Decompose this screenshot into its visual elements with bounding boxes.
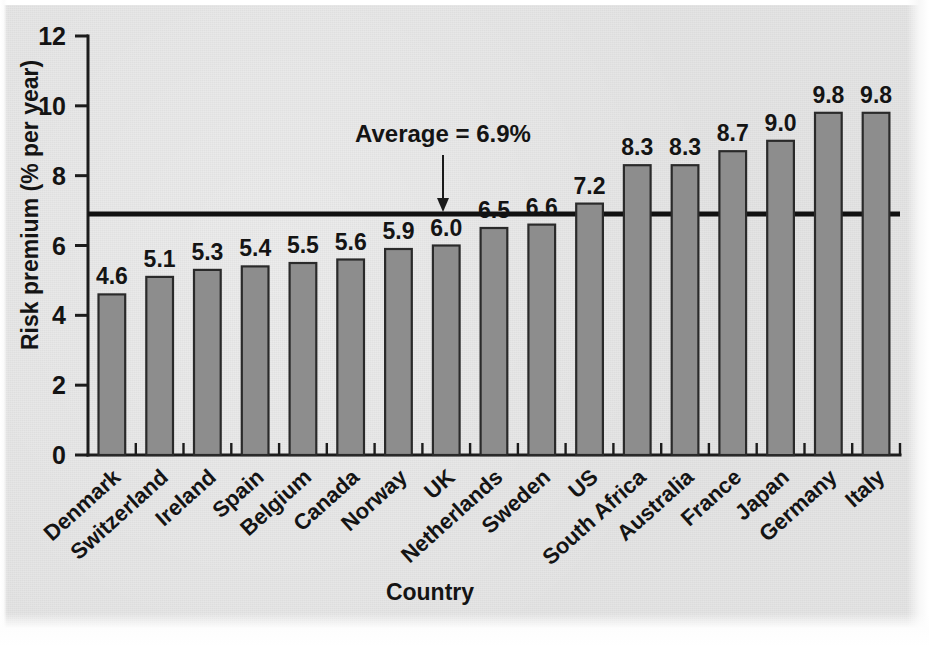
chart-svg: 024681012 4.65.15.35.45.55.65.96.06.56.6…: [0, 0, 929, 647]
y-axis-title: Risk premium (% per year): [17, 60, 43, 350]
x-axis-title: Country: [386, 579, 474, 605]
bar-value-label: 8.3: [669, 134, 701, 160]
bar-value-label: 5.9: [383, 218, 415, 244]
scanned-page: 024681012 4.65.15.35.45.55.65.96.06.56.6…: [0, 0, 929, 647]
bar-series: [99, 113, 890, 455]
bar-value-label: 8.7: [717, 120, 749, 146]
y-axis-tick-label: 0: [52, 441, 66, 469]
bar: [624, 165, 651, 455]
y-axis-tick-label: 12: [38, 22, 66, 50]
y-axis-tick-label: 2: [52, 371, 66, 399]
bar: [767, 141, 794, 455]
bar: [146, 277, 173, 455]
bar: [719, 151, 746, 455]
bar: [99, 294, 126, 455]
bar: [385, 249, 412, 455]
bar-chart: 024681012 4.65.15.35.45.55.65.96.06.56.6…: [0, 0, 929, 647]
bar-value-label: 9.0: [765, 110, 797, 136]
bar: [481, 228, 508, 455]
y-axis: 024681012: [38, 22, 88, 469]
bar-value-label: 8.3: [621, 134, 653, 160]
bar-value-label: 6.5: [478, 197, 510, 223]
bar-value-label: 5.4: [239, 235, 271, 261]
y-axis-tick-label: 6: [52, 232, 66, 260]
bar: [576, 204, 603, 455]
bar-value-label: 4.6: [96, 263, 128, 289]
bar: [337, 260, 364, 456]
bar: [242, 266, 269, 455]
bar: [433, 246, 460, 456]
bar-value-label: 5.1: [144, 246, 176, 272]
y-axis-tick-label: 4: [52, 301, 66, 329]
x-axis-category-label: Italy: [840, 464, 890, 513]
bar: [290, 263, 317, 455]
bar-value-label: 9.8: [812, 82, 844, 108]
average-annotation-label: Average = 6.9%: [355, 120, 531, 147]
bar: [528, 225, 555, 455]
bar-value-label: 9.8: [860, 82, 892, 108]
y-axis-tick-label: 8: [52, 162, 66, 190]
bar-value-label: 7.2: [574, 173, 606, 199]
bar-value-label: 5.6: [335, 229, 367, 255]
x-axis-category-labels: DenmarkSwitzerlandIrelandSpainBelgiumCan…: [39, 464, 890, 570]
bar-value-label: 6.6: [526, 194, 558, 220]
bar: [672, 165, 699, 455]
bar: [863, 113, 890, 455]
y-axis-ticks: [75, 36, 88, 455]
bar-value-label: 6.0: [430, 215, 462, 241]
bar-value-label: 5.3: [191, 239, 223, 265]
average-annotation-arrowhead: [437, 198, 449, 212]
bar: [194, 270, 221, 455]
bar: [815, 113, 842, 455]
bar-value-label: 5.5: [287, 232, 319, 258]
